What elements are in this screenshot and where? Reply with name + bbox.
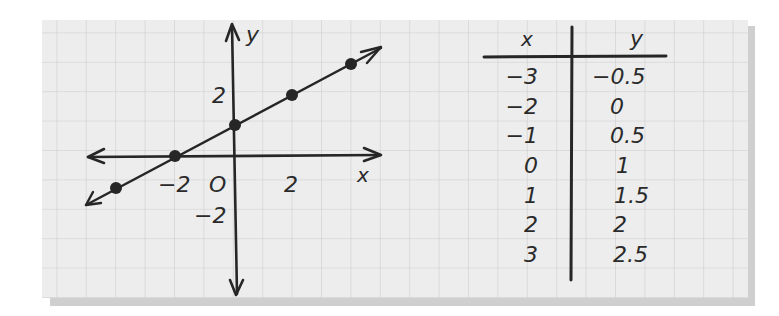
- point-neg2: [169, 150, 181, 162]
- table-header-y: y: [629, 26, 644, 51]
- tick-x-2: 2: [284, 172, 298, 197]
- tick-x-neg2: −2: [158, 172, 190, 197]
- table-cell-x: 2: [524, 212, 538, 237]
- table-cell-x: 3: [524, 242, 538, 267]
- table-cell-y: 0.5: [610, 123, 645, 148]
- tick-y-neg2: −2: [194, 203, 226, 228]
- tick-y-2: 2: [212, 83, 226, 108]
- table-cell-y: 1: [616, 153, 630, 178]
- x-axis-label: x: [356, 163, 369, 187]
- table-divider: [571, 27, 572, 280]
- table-cell-y: 1.5: [614, 183, 649, 208]
- point-4: [345, 58, 357, 70]
- table-header-rule: [484, 56, 666, 57]
- table-cell-y: 2.5: [613, 242, 648, 267]
- table-cell-x: −1: [506, 123, 538, 148]
- y-axis-label: y: [245, 22, 260, 47]
- table-cell-x: 1: [524, 183, 538, 208]
- graph-paper-figure: y x −2 O 2 2 −2 x y −3 −2 −1 0 1 2 3 −0.…: [0, 0, 779, 316]
- table-cell-x: −3: [506, 64, 538, 89]
- table-cell-y: −0.5: [592, 64, 645, 89]
- tick-origin: O: [209, 172, 226, 197]
- table-cell-x: −2: [506, 94, 538, 119]
- table-header-x: x: [520, 27, 533, 51]
- table-cell-y: 0: [610, 94, 624, 119]
- point-2: [286, 89, 298, 101]
- table-cell-y: 2: [613, 212, 627, 237]
- table-cell-x: 0: [524, 153, 538, 178]
- point-neg3: [110, 182, 122, 194]
- point-0: [229, 119, 241, 131]
